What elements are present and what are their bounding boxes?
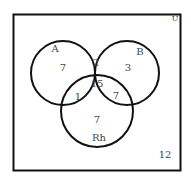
region-a-only: 7 [60,63,66,73]
universe-label: U [172,15,179,23]
region-a-rh: 1 [75,92,81,102]
outside-count: 12 [159,150,172,160]
region-rh-only: 7 [94,115,100,125]
set-a-circle [31,41,95,105]
region-b-rh: 7 [113,91,119,101]
region-a-b-rh: 15 [91,79,104,89]
region-b-only: 3 [125,63,131,73]
set-rh-label: Rh [92,133,106,143]
set-b-label: B [136,47,143,57]
set-b-circle [95,41,159,105]
set-a-label: A [51,44,58,54]
region-a-b: 2 [93,58,99,68]
